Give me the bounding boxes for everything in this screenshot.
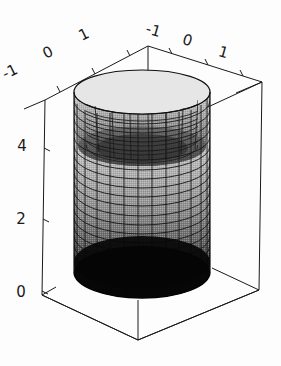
plot-figure: -1 0 1 -1 0 1 4 2 0 (0, 0, 281, 366)
cylinder-base (74, 236, 210, 298)
surface-plot-canvas: -1 0 1 -1 0 1 4 2 0 (0, 0, 281, 366)
z-tick-label-4: 4 (17, 137, 27, 155)
y-tick-label-1: 1 (76, 24, 92, 44)
y-tick-label-0: 0 (40, 42, 56, 62)
z-tick-label-0: 0 (16, 283, 26, 301)
cylinder-inner-wall (74, 70, 210, 166)
x-tick-label-0: 0 (180, 30, 194, 50)
x-tick-label-1: 1 (216, 42, 230, 62)
x-tick-label-neg1: -1 (144, 19, 163, 40)
z-tick-label-2: 2 (16, 210, 26, 228)
y-tick-label-neg1: -1 (0, 60, 20, 83)
